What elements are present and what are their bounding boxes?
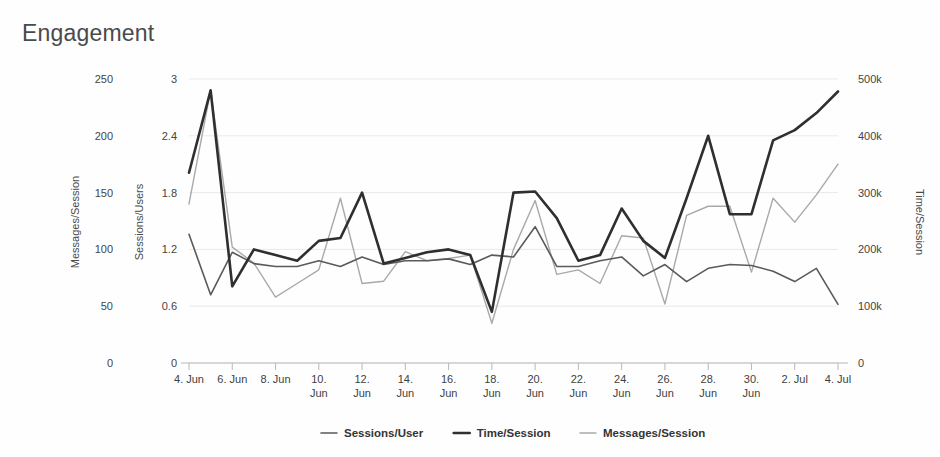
sessions-tick-0: 0 <box>171 357 177 369</box>
sessions-per-users-axis: 00.61.21.82.43 <box>162 73 177 369</box>
x-axis-label: 26. <box>657 373 672 385</box>
messages-tick-1: 50 <box>101 300 113 312</box>
messages-per-session-axis: 050100150200250 <box>95 73 113 369</box>
chart-page: Engagement 050100150200250 00.61.21.82.4… <box>0 0 940 457</box>
chart-legend: Sessions/UserTime/SessionMessages/Sessio… <box>321 427 705 439</box>
axis-title-sessions-users: Sessions/Users <box>133 183 145 260</box>
x-axis-label-line2: Jun <box>310 387 328 399</box>
messages-tick-5: 250 <box>95 73 113 85</box>
time-tick-5: 500k <box>858 73 882 85</box>
x-axis-label-line2: Jun <box>396 387 414 399</box>
time-tick-1: 100k <box>858 300 882 312</box>
x-axis-label: 14. <box>398 373 413 385</box>
x-axis-label-line2: Jun <box>570 387 588 399</box>
x-axis-label: 6. Jun <box>217 373 247 385</box>
x-axis-label: 2. Jul <box>782 373 808 385</box>
sessions-tick-5: 3 <box>171 73 177 85</box>
x-axis-label-line2: Jun <box>483 387 501 399</box>
x-axis-label-line2: Jun <box>743 387 761 399</box>
x-axis-label: 18. <box>484 373 499 385</box>
x-axis-label: 4. Jul <box>825 373 851 385</box>
x-axis-label-line2: Jun <box>656 387 674 399</box>
messages-tick-3: 150 <box>95 187 113 199</box>
x-axis-label: 20. <box>527 373 542 385</box>
x-axis-label: 30. <box>744 373 759 385</box>
time-tick-0: 0 <box>858 357 864 369</box>
x-axis-label-line2: Jun <box>353 387 371 399</box>
x-axis-label: 4. Jun <box>174 373 204 385</box>
time-tick-3: 300k <box>858 187 882 199</box>
messages-tick-4: 200 <box>95 130 113 142</box>
x-axis-label: 24. <box>614 373 629 385</box>
x-axis-label: 12. <box>354 373 369 385</box>
data-series-group <box>189 90 838 323</box>
sessions-tick-1: 0.6 <box>162 300 177 312</box>
sessions-tick-2: 1.2 <box>162 243 177 255</box>
messages-tick-2: 100 <box>95 243 113 255</box>
series-line-messages-session <box>189 90 838 323</box>
series-line-time-session <box>189 90 838 312</box>
axis-title-time-session: Time/Session <box>914 189 926 255</box>
x-axis-label-line2: Jun <box>526 387 544 399</box>
axis-title-messages-session: Messages/Session <box>69 176 81 268</box>
x-axis-label: 8. Jun <box>261 373 291 385</box>
time-tick-2: 200k <box>858 243 882 255</box>
x-axis: 4. Jun6. Jun8. Jun10.Jun12.Jun14.Jun16.J… <box>174 363 851 399</box>
messages-tick-0: 0 <box>107 357 113 369</box>
x-axis-label: 16. <box>441 373 456 385</box>
x-axis-label: 22. <box>571 373 586 385</box>
x-axis-label: 10. <box>311 373 326 385</box>
sessions-tick-3: 1.8 <box>162 187 177 199</box>
legend-label-0[interactable]: Sessions/User <box>344 427 424 439</box>
x-axis-label-line2: Jun <box>440 387 458 399</box>
x-axis-label-line2: Jun <box>699 387 717 399</box>
x-axis-label: 28. <box>701 373 716 385</box>
time-per-session-axis: 0100k200k300k400k500k <box>858 73 882 369</box>
sessions-tick-4: 2.4 <box>162 130 177 142</box>
time-tick-4: 400k <box>858 130 882 142</box>
engagement-line-chart: 050100150200250 00.61.21.82.43 0100k200k… <box>0 0 940 457</box>
x-axis-label-line2: Jun <box>613 387 631 399</box>
legend-label-1[interactable]: Time/Session <box>477 427 551 439</box>
legend-label-2[interactable]: Messages/Session <box>603 427 705 439</box>
gridlines <box>189 79 838 363</box>
